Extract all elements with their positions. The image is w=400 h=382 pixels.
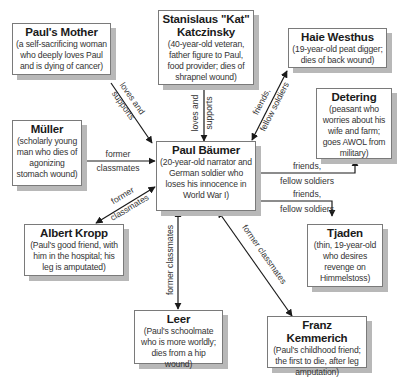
edge-kat: loves and supports — [190, 84, 214, 141]
node-haie-westhus: Haie Westhus (19-year-old peat digger; d… — [288, 28, 387, 68]
node-description: (thin, 19-year-old who desires revenge o… — [311, 240, 379, 284]
node-title: Tjaden — [311, 227, 379, 240]
edge-label: fellow soldiers — [280, 176, 334, 186]
edge-leer: former classmates — [165, 211, 178, 309]
node-description: (40-year-old veteran, father figure to P… — [162, 39, 250, 83]
edge-label: former — [106, 149, 131, 159]
node-description: (Paul's childhood friend; the first to d… — [271, 345, 363, 378]
edge-label: friends, — [293, 161, 321, 171]
node-title: Haie Westhus — [292, 31, 383, 44]
node-description: (Paul's good friend, with him in the hos… — [28, 240, 120, 273]
edge-label: fellow soldiers — [280, 204, 334, 214]
edge-haie: friends, fellow soldiers — [250, 71, 291, 140]
edge-mother: loves and supports — [110, 80, 152, 143]
node-title: Detering — [320, 91, 388, 104]
node-title: Paul's Mother — [16, 26, 107, 39]
node-paul-baumer[interactable]: Paul Bäumer (20-year-old narrator and Ge… — [156, 141, 256, 211]
node-title: Albert Kropp — [28, 227, 120, 240]
node-description: (20-year-old narrator and German soldier… — [160, 157, 252, 201]
node-franz-kemmerich: Franz Kemmerich (Paul's childhood friend… — [267, 316, 367, 368]
node-tjaden: Tjaden (thin, 19-year-old who desires re… — [307, 224, 383, 287]
node-detering: Detering (peasant who worries about his … — [316, 88, 392, 159]
node-pauls-mother: Paul's Mother (a self-sacrificing woman … — [12, 23, 111, 75]
node-title: Paul Bäumer — [160, 144, 252, 157]
node-albert-kropp: Albert Kropp (Paul's good friend, with h… — [24, 224, 124, 276]
node-description: (Paul's schoolmate who is more worldly; … — [138, 326, 219, 370]
node-title: Stanislaus "Kat" Katczinsky — [162, 13, 250, 39]
node-leer: Leer (Paul's schoolmate who is more worl… — [134, 310, 223, 364]
edge-kemmerich: former classmates — [218, 211, 292, 316]
edge-label: classmates — [97, 163, 140, 173]
node-description: (19-year-old peat digger; dies of back w… — [292, 44, 383, 66]
node-title: Franz Kemmerich — [271, 319, 363, 345]
edge-muller: former classmates — [81, 149, 155, 173]
node-description: (peasant who worries about his wife and … — [320, 104, 388, 159]
node-title: Leer — [138, 313, 219, 326]
edge-detering: friends, fellow soldiers — [255, 160, 355, 186]
node-kat-katczinsky: Stanislaus "Kat" Katczinsky (40-year-old… — [158, 10, 254, 85]
edge-label: loves and — [190, 94, 200, 131]
node-description: (a self-sacrificing woman who deeply lov… — [16, 39, 107, 72]
edge-kropp: former classmates — [96, 185, 155, 223]
edge-label: friends, — [293, 189, 321, 199]
node-muller: Müller (scholarly young man who dies of … — [12, 120, 82, 186]
edge-label: former classmates — [165, 225, 175, 295]
node-description: (scholarly young man who dies of agonizi… — [16, 136, 78, 180]
edge-tjaden: friends, fellow soldiers — [255, 189, 334, 216]
node-title: Müller — [16, 123, 78, 136]
edge-label: supports — [204, 97, 214, 130]
